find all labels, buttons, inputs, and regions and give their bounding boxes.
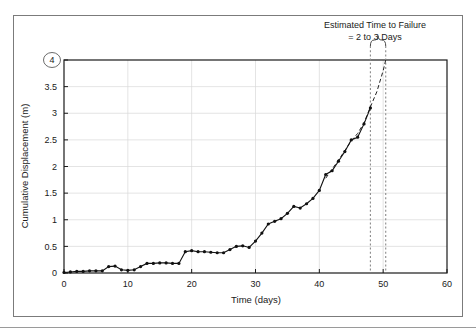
data-point: [158, 261, 161, 264]
x-tick-label: 30: [250, 279, 260, 289]
x-axis-tick-labels: 0102030405060: [61, 279, 452, 289]
data-point: [171, 262, 174, 265]
measured-markers: [62, 106, 372, 274]
data-point: [94, 269, 97, 272]
data-point: [267, 222, 270, 225]
highlight-circle-label: 4: [49, 55, 54, 65]
x-tick-label: 50: [378, 279, 388, 289]
data-point: [248, 246, 251, 249]
data-point: [241, 244, 244, 247]
data-point: [273, 220, 276, 223]
measured-line: [64, 108, 370, 273]
data-point: [107, 265, 110, 268]
data-point: [177, 262, 180, 265]
data-point: [152, 262, 155, 265]
data-point: [356, 136, 359, 139]
data-point: [362, 122, 365, 125]
data-point: [279, 217, 282, 220]
data-point: [305, 202, 308, 205]
data-point: [292, 205, 295, 208]
y-tick-label: 1.5: [44, 188, 57, 198]
x-tick-label: 40: [314, 279, 324, 289]
data-point: [126, 269, 129, 272]
y-tick-label: 2: [52, 162, 57, 172]
data-point: [343, 150, 346, 153]
data-point: [165, 261, 168, 264]
data-point: [88, 269, 91, 272]
projection-line: [326, 60, 386, 178]
y-tick-label: 2.5: [44, 135, 57, 145]
data-point: [133, 268, 136, 271]
y-axis-tick-labels: 00.511.522.533.5: [44, 82, 57, 278]
data-point: [145, 262, 148, 265]
displacement-chart: 00.511.522.533.5 0102030405060 Cumulativ…: [0, 0, 476, 331]
data-point: [62, 271, 65, 274]
failure-annotation: Estimated Time to Failure = 2 to 3 Days: [324, 20, 426, 46]
annotation-line-2: = 2 to 3 Days: [348, 32, 402, 42]
y-tick-label: 3: [52, 108, 57, 118]
data-point: [222, 251, 225, 254]
x-tick-label: 60: [442, 279, 452, 289]
data-point: [228, 248, 231, 251]
y-axis-title-text: Cumulative Displacement (m): [19, 104, 30, 229]
data-point: [299, 206, 302, 209]
data-point: [209, 251, 212, 254]
annotation-line-1: Estimated Time to Failure: [324, 20, 426, 30]
data-point: [260, 231, 263, 234]
page-bottom-rule: [0, 327, 476, 328]
data-point: [101, 269, 104, 272]
data-point: [75, 270, 78, 273]
data-point: [203, 250, 206, 253]
data-point: [196, 250, 199, 253]
data-point: [369, 106, 372, 109]
y-axis-title: Cumulative Displacement (m): [19, 104, 30, 229]
data-point: [139, 265, 142, 268]
data-point: [184, 250, 187, 253]
data-point: [350, 138, 353, 141]
data-point: [331, 169, 334, 172]
y-tick-label: 0.5: [44, 242, 57, 252]
data-point: [311, 197, 314, 200]
figure-root: 00.511.522.533.5 0102030405060 Cumulativ…: [0, 0, 476, 331]
x-tick-label: 0: [61, 279, 66, 289]
x-axis-title: Time (days): [231, 294, 281, 305]
data-point: [318, 189, 321, 192]
data-point: [286, 212, 289, 215]
y-tick-label: 3.5: [44, 82, 57, 92]
y-tick-label: 0: [52, 268, 57, 278]
data-point: [235, 245, 238, 248]
data-point: [190, 249, 193, 252]
data-series-group: [62, 60, 385, 274]
data-point: [69, 270, 72, 273]
x-axis-title-text: Time (days): [231, 294, 281, 305]
circled-axis-highlight: 4: [44, 53, 61, 68]
data-point: [113, 264, 116, 267]
data-point: [82, 270, 85, 273]
data-point: [254, 239, 257, 242]
data-point: [337, 160, 340, 163]
y-tick-label: 1: [52, 215, 57, 225]
data-point: [120, 268, 123, 271]
data-point: [324, 173, 327, 176]
x-tick-label: 10: [123, 279, 133, 289]
x-tick-label: 20: [187, 279, 197, 289]
data-point: [216, 251, 219, 254]
